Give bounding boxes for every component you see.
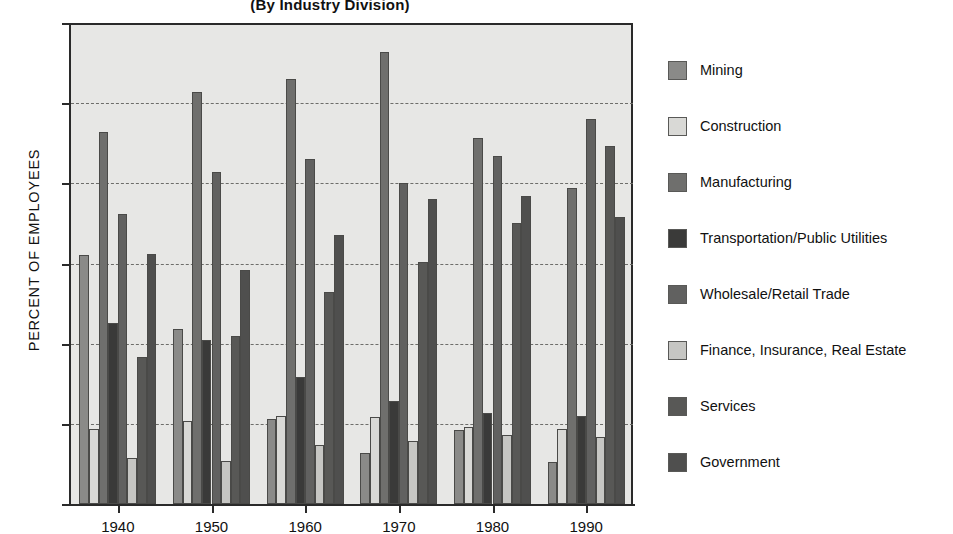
legend-item-label: Mining	[700, 62, 743, 78]
bar	[127, 458, 137, 504]
bar	[521, 196, 531, 504]
bar	[502, 435, 512, 504]
bar	[137, 357, 147, 505]
bar	[418, 262, 428, 504]
bar	[89, 429, 99, 504]
bar	[276, 416, 286, 504]
bar	[183, 421, 193, 504]
legend-item-label: Services	[700, 398, 756, 414]
bar	[557, 429, 567, 504]
bar	[240, 270, 250, 504]
legend-item-label: Government	[700, 454, 780, 470]
bar	[212, 172, 222, 504]
plot-frame: 051015202530 194019501960197019801990	[71, 23, 633, 504]
x-tick-mark	[305, 504, 307, 513]
legend-item[interactable]: Construction	[668, 98, 953, 154]
bar	[79, 255, 89, 504]
bar	[548, 462, 558, 504]
bar	[173, 329, 183, 504]
bar	[464, 427, 474, 504]
legend-swatch-icon	[668, 453, 687, 472]
legend-item-label: Manufacturing	[700, 174, 792, 190]
bar	[118, 214, 128, 504]
legend-swatch-icon	[668, 173, 687, 192]
bar	[577, 416, 587, 504]
bar	[512, 223, 522, 504]
bar	[586, 119, 596, 504]
legend-item[interactable]: Transportation/Public Utilities	[668, 210, 953, 266]
y-tick-mark	[62, 264, 71, 266]
bar	[380, 52, 390, 504]
bar	[615, 217, 625, 504]
y-tick-mark	[62, 23, 71, 25]
bar	[231, 336, 241, 504]
bar	[296, 377, 306, 504]
bar	[370, 417, 380, 504]
bar	[483, 413, 493, 504]
bar	[221, 461, 231, 504]
bar	[360, 453, 370, 504]
legend-item[interactable]: Services	[668, 378, 953, 434]
bar	[454, 430, 464, 504]
y-tick-mark	[62, 183, 71, 185]
legend-item[interactable]: Government	[668, 434, 953, 490]
legend-item-label: Finance, Insurance, Real Estate	[700, 342, 906, 358]
x-axis-line	[69, 504, 635, 506]
legend-item[interactable]: Wholesale/Retail Trade	[668, 266, 953, 322]
x-tick-label: 1990	[526, 518, 646, 534]
bar	[473, 138, 483, 504]
legend-swatch-icon	[668, 397, 687, 416]
bar	[596, 437, 606, 504]
bar	[286, 79, 296, 504]
bar	[267, 419, 277, 504]
y-tick-mark	[62, 103, 71, 105]
legend-swatch-icon	[668, 61, 687, 80]
gridline	[71, 183, 633, 184]
bar	[202, 340, 212, 504]
legend-item[interactable]: Manufacturing	[668, 154, 953, 210]
x-tick-mark	[493, 504, 495, 513]
legend-swatch-icon	[668, 285, 687, 304]
legend-item-label: Transportation/Public Utilities	[700, 230, 887, 246]
bar	[493, 156, 503, 504]
legend-item[interactable]: Finance, Insurance, Real Estate	[668, 322, 953, 378]
legend-swatch-icon	[668, 229, 687, 248]
legend-item[interactable]: Mining	[668, 42, 953, 98]
bar	[147, 254, 157, 504]
gridline	[71, 103, 633, 104]
x-tick-mark	[118, 504, 120, 513]
legend-swatch-icon	[668, 117, 687, 136]
legend-swatch-icon	[668, 341, 687, 360]
x-tick-mark	[399, 504, 401, 513]
legend-item-label: Wholesale/Retail Trade	[700, 286, 850, 302]
x-tick-mark	[212, 504, 214, 513]
bar	[605, 146, 615, 504]
y-tick-mark	[62, 504, 71, 506]
bar	[305, 159, 315, 504]
y-axis-title: PERCENT OF EMPLOYEES	[26, 120, 42, 380]
bar	[428, 199, 438, 504]
bar	[324, 292, 334, 504]
legend-item-label: Construction	[700, 118, 781, 134]
bar	[399, 183, 409, 504]
chart-title: (By Industry Division)	[0, 0, 660, 13]
bar	[99, 132, 109, 504]
x-tick-mark	[586, 504, 588, 513]
bar	[315, 445, 325, 504]
bar	[408, 441, 418, 504]
bar	[567, 188, 577, 504]
bar	[108, 323, 118, 504]
bar	[192, 92, 202, 504]
y-tick-mark	[62, 344, 71, 346]
y-tick-mark	[62, 424, 71, 426]
bar	[334, 235, 344, 504]
legend: MiningConstructionManufacturingTransport…	[668, 42, 953, 490]
bar	[389, 401, 399, 504]
